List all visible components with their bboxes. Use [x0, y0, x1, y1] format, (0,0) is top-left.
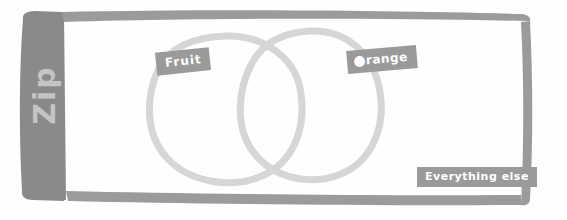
venn-circles: [0, 0, 567, 220]
label-fruit-text: Fruit: [164, 52, 202, 70]
label-everything-else[interactable]: Everything else: [417, 167, 537, 187]
label-everything-else-text: Everything else: [425, 170, 529, 183]
label-orange-text: range: [365, 50, 408, 68]
venn-diagram-canvas: Zip Fruit range Everything else: [0, 0, 567, 220]
orange-dot-icon: [354, 55, 366, 67]
